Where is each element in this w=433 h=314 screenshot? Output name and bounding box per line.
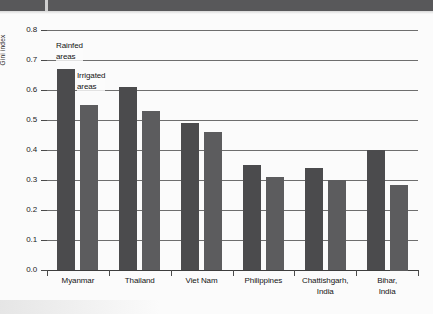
y-axis-title: Gini index <box>0 20 6 80</box>
y-tick-label: 0.4 <box>13 145 37 154</box>
y-tick-label: 0.8 <box>13 25 37 34</box>
y-tick-mark <box>41 180 47 181</box>
x-category-label: Bihar,India <box>350 276 424 297</box>
y-tick-label: 0.6 <box>13 85 37 94</box>
y-tick-label: 0.5 <box>13 115 37 124</box>
scan-smudge-bottom <box>0 300 160 314</box>
y-tick-mark <box>41 30 47 31</box>
bar-irrigated <box>204 132 222 270</box>
annotation-line: Irrigated <box>77 71 105 82</box>
annotation-line: areas <box>56 52 83 63</box>
y-tick-label: 0.3 <box>13 175 37 184</box>
gini-index-bar-chart: Gini index 0.00.10.20.30.40.50.60.70.8My… <box>0 0 433 314</box>
gridline <box>47 30 418 31</box>
bar-irrigated <box>328 180 346 270</box>
y-tick-mark <box>41 60 47 61</box>
series-annotation-irrigated: Irrigatedareas <box>77 71 105 92</box>
y-tick-label: 0.7 <box>13 55 37 64</box>
bar-rainfed <box>119 87 137 270</box>
y-tick-mark <box>41 210 47 211</box>
y-tick-label: 0.2 <box>13 205 37 214</box>
y-tick-mark <box>41 240 47 241</box>
gridline <box>47 60 418 61</box>
gridline <box>47 240 418 241</box>
bar-irrigated <box>80 105 98 270</box>
bar-rainfed <box>305 168 323 270</box>
bar-rainfed <box>243 165 261 270</box>
x-tick-label-line: India <box>350 287 424 298</box>
y-tick-mark <box>41 150 47 151</box>
bar-irrigated <box>266 177 284 270</box>
y-tick-label: 0.0 <box>13 265 37 274</box>
y-tick-label: 0.1 <box>13 235 37 244</box>
bar-irrigated <box>142 111 160 270</box>
series-annotation-rainfed: Rainfedareas <box>56 41 83 62</box>
bar-irrigated <box>390 185 408 271</box>
bar-rainfed <box>181 123 199 270</box>
bar-rainfed <box>57 69 75 270</box>
y-tick-mark <box>41 90 47 91</box>
annotation-line: areas <box>77 82 105 93</box>
figure-page: Gini index 0.00.10.20.30.40.50.60.70.8My… <box>0 0 433 314</box>
x-tick-label-line: Bihar, <box>350 276 424 287</box>
annotation-line: Rainfed <box>56 41 83 52</box>
gridline <box>47 120 418 121</box>
gridline <box>47 150 418 151</box>
gridline <box>47 180 418 181</box>
y-tick-mark <box>41 120 47 121</box>
bar-rainfed <box>367 150 385 270</box>
gridline <box>47 210 418 211</box>
